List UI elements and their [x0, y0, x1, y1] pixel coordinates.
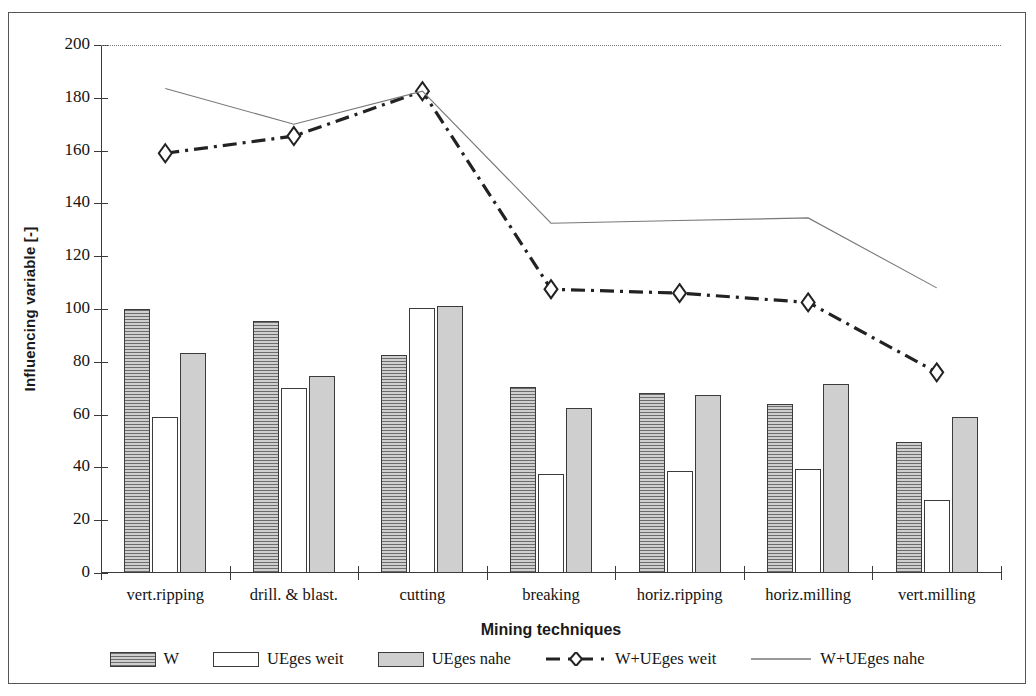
y-axis-title: Influencing variable [-] [21, 227, 38, 392]
x-tick [1001, 566, 1002, 580]
x-category-label: vert.milling [898, 585, 975, 605]
legend-label: W+UEges nahe [820, 649, 924, 669]
diamond-marker-icon [802, 293, 815, 311]
y-tick-label: 180 [65, 87, 91, 107]
y-tick-label: 200 [65, 34, 91, 54]
y-tick-label: 80 [73, 351, 90, 371]
y-tick-label: 160 [65, 140, 91, 160]
legend-swatch [750, 652, 812, 666]
diamond-marker-icon [930, 363, 943, 381]
chart-legend: WUEges weitUEges naheW+UEges weitW+UEges… [9, 649, 1025, 669]
x-category-label: vert.ripping [127, 585, 204, 605]
x-category-label: breaking [522, 585, 580, 605]
legend-swatch [110, 652, 156, 667]
legend-swatch [213, 652, 259, 667]
legend-item: UEges weit [213, 649, 344, 669]
plot-frame: 020406080100120140160180200 vert.ripping… [101, 45, 1001, 573]
x-category-label: cutting [400, 585, 446, 605]
x-category-label: horiz.milling [765, 585, 851, 605]
line-series [165, 89, 936, 288]
legend-item: W [110, 649, 180, 669]
legend-label: UEges weit [267, 649, 344, 669]
y-tick-label: 40 [73, 457, 90, 477]
x-axis-title: Mining techniques [481, 621, 621, 639]
line-series [165, 91, 936, 372]
y-tick-label: 120 [65, 246, 91, 266]
legend-item: UEges nahe [378, 649, 511, 669]
y-tick-label: 0 [82, 562, 91, 582]
legend-swatch [545, 652, 607, 666]
x-category-label: horiz.ripping [637, 585, 723, 605]
y-tick-label: 100 [65, 298, 91, 318]
chart-figure: 020406080100120140160180200 vert.ripping… [8, 12, 1026, 684]
plot-area: 020406080100120140160180200 vert.ripping… [101, 45, 1001, 573]
y-tick-label: 60 [73, 404, 90, 424]
legend-label: UEges nahe [432, 649, 511, 669]
y-tick-label: 140 [65, 193, 91, 213]
diamond-marker-icon [673, 284, 686, 302]
legend-item: W+UEges nahe [750, 649, 924, 669]
diamond-marker-icon [287, 127, 300, 145]
legend-label: W [164, 649, 180, 669]
legend-swatch [378, 652, 424, 667]
legend-item: W+UEges weit [545, 649, 716, 669]
legend-label: W+UEges weit [615, 649, 716, 669]
line-series-layer [101, 45, 1001, 573]
diamond-marker-icon [159, 144, 172, 162]
x-category-label: drill. & blast. [250, 585, 338, 605]
y-tick-label: 20 [73, 510, 90, 530]
diamond-marker-icon [570, 652, 582, 666]
